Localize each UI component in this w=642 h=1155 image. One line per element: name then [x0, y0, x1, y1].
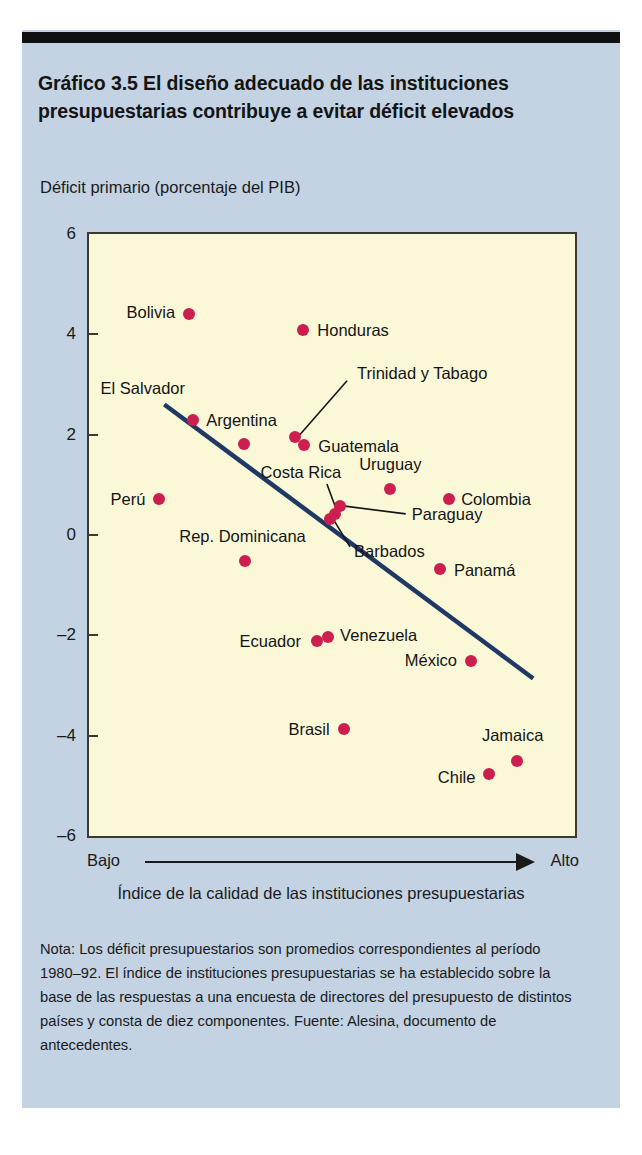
figure-note: Nota: Los déficit presupuestarios son pr…: [40, 938, 585, 1058]
data-point[interactable]: [511, 755, 523, 767]
y-tick-label: –2: [57, 625, 76, 645]
plot-inner: 6420–2–4–6BoliviaHondurasEl SalvadorArge…: [89, 234, 575, 836]
y-tick-mark: [89, 735, 98, 737]
data-point[interactable]: [465, 655, 477, 667]
data-point-label: Jamaica: [482, 725, 543, 744]
label-leader-line: [333, 519, 350, 547]
data-point-label: Paraguay: [412, 504, 483, 523]
y-tick-mark: [89, 434, 98, 436]
data-point-label: Bolivia: [127, 303, 176, 322]
data-point[interactable]: [443, 493, 455, 505]
data-point[interactable]: [298, 439, 310, 451]
data-point-label: Costa Rica: [261, 462, 342, 481]
y-tick-label: 4: [67, 324, 76, 344]
data-point-label: Brasil: [288, 719, 329, 738]
data-point-label: Chile: [438, 767, 476, 786]
data-point-label: Barbados: [354, 541, 425, 560]
y-axis-caption: Déficit primario (porcentaje del PIB): [40, 178, 300, 197]
data-point[interactable]: [322, 631, 334, 643]
data-point[interactable]: [153, 493, 165, 505]
data-point-label: Venezuela: [340, 626, 417, 645]
data-point-label: Uruguay: [359, 454, 421, 473]
label-leader-line: [298, 381, 347, 437]
data-point-label: Honduras: [317, 321, 389, 340]
data-point[interactable]: [434, 563, 446, 575]
data-point[interactable]: [324, 513, 336, 525]
top-rule: [22, 32, 620, 43]
data-point-label: Ecuador: [239, 632, 300, 651]
label-leader-line: [343, 506, 406, 514]
data-point[interactable]: [338, 723, 350, 735]
data-point-label: Perú: [111, 489, 146, 508]
y-tick-mark: [89, 534, 98, 536]
data-point-label: Rep. Dominicana: [179, 527, 306, 546]
data-point[interactable]: [311, 635, 323, 647]
figure-page: Gráfico 3.5 El diseño adecuado de las in…: [0, 0, 642, 1155]
x-axis-low-label: Bajo: [87, 851, 120, 870]
y-tick-label: –6: [57, 826, 76, 846]
y-tick-label: 2: [67, 425, 76, 445]
x-axis-arrow-icon: [145, 861, 517, 863]
data-point[interactable]: [187, 414, 199, 426]
data-point-label: El Salvador: [101, 378, 185, 397]
data-point[interactable]: [384, 483, 396, 495]
data-point[interactable]: [297, 324, 309, 336]
plot-area: 6420–2–4–6BoliviaHondurasEl SalvadorArge…: [87, 232, 577, 838]
data-point[interactable]: [483, 768, 495, 780]
data-point-label: Panamá: [454, 561, 515, 580]
x-axis-row: Bajo Alto: [87, 848, 577, 874]
figure-title: Gráfico 3.5 El diseño adecuado de las in…: [38, 70, 578, 126]
data-point[interactable]: [239, 555, 251, 567]
data-point-label: Guatemala: [318, 436, 399, 455]
y-tick-label: 6: [67, 224, 76, 244]
x-axis-high-label: Alto: [551, 851, 579, 870]
y-tick-label: –4: [57, 726, 76, 746]
data-point-label: México: [405, 651, 457, 670]
data-point-label: Trinidad y Tabago: [357, 363, 487, 382]
y-tick-mark: [89, 634, 98, 636]
y-tick-label: 0: [67, 525, 76, 545]
data-point[interactable]: [238, 438, 250, 450]
y-tick-mark: [89, 333, 98, 335]
x-axis-caption: Índice de la calidad de las institucione…: [0, 884, 642, 903]
data-point-label: Argentina: [206, 410, 277, 429]
data-point[interactable]: [183, 308, 195, 320]
